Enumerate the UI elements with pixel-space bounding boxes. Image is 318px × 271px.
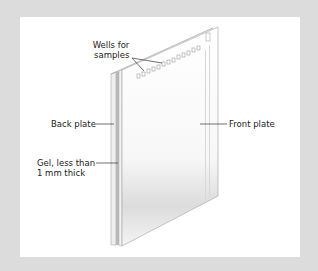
gel-label-line-1: Gel, less than — [37, 158, 95, 168]
wells-label-line-1: Wells for — [90, 40, 129, 50]
front-plate-label: Front plate — [229, 119, 275, 129]
gel-apparatus-illustration — [0, 0, 318, 271]
gel-label-line-2: 1 mm thick — [37, 168, 95, 178]
wells-label-line-2: samples — [90, 50, 129, 60]
gel-label: Gel, less than 1 mm thick — [37, 158, 95, 178]
gel-layer — [116, 71, 119, 245]
back-plate-label: Back plate — [51, 119, 96, 129]
wells-label: Wells for samples — [90, 40, 129, 60]
